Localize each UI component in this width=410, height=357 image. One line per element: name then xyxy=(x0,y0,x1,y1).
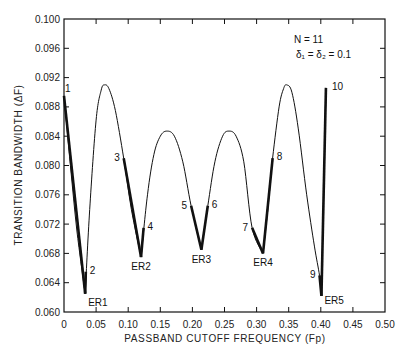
point-label: 3 xyxy=(114,152,120,163)
extremal-label: ER4 xyxy=(253,257,273,268)
point-label: 6 xyxy=(212,199,218,210)
n-annotation: N = 11 xyxy=(294,34,323,45)
bold-segment xyxy=(252,228,263,254)
y-tick-label: 0.100 xyxy=(35,14,60,25)
bold-segment xyxy=(124,158,141,257)
point-label: 7 xyxy=(243,222,249,233)
x-tick-label: 0.10 xyxy=(118,319,138,330)
x-tick-label: 0.50 xyxy=(375,319,395,330)
extremal-label: ER5 xyxy=(324,295,344,306)
bold-segment xyxy=(263,158,273,253)
extremal-label: ER1 xyxy=(88,297,108,308)
y-tick-label: 0.084 xyxy=(35,131,60,142)
x-tick-label: 0.45 xyxy=(343,319,363,330)
x-axis-ticks: 00.050.100.150.200.250.300.350.400.450.5… xyxy=(61,19,395,330)
point-label: 9 xyxy=(310,269,316,280)
delta-annotation: δ₁ = δ₂ = 0.1 xyxy=(296,49,352,60)
point-labels: 12345678910ER1ER2ER3ER4ER5 xyxy=(65,81,344,308)
x-tick-label: 0.15 xyxy=(151,319,171,330)
point-label: 8 xyxy=(277,151,283,162)
y-tick-label: 0.096 xyxy=(35,43,60,54)
point-label: 10 xyxy=(332,81,344,92)
y-tick-label: 0.064 xyxy=(35,277,60,288)
y-tick-label: 0.088 xyxy=(35,101,60,112)
x-axis-title: PASSBAND CUTOFF FREQUENCY (Fp) xyxy=(124,333,325,344)
extremal-label: ER3 xyxy=(192,254,212,265)
y-axis-title: TRANSITION BANDWIDTH (ΔF) xyxy=(13,84,24,245)
y-tick-label: 0.092 xyxy=(35,72,60,83)
x-tick-label: 0.05 xyxy=(86,319,106,330)
point-label: 1 xyxy=(65,83,71,94)
plot-frame xyxy=(64,19,385,312)
x-tick-label: 0.20 xyxy=(183,319,203,330)
point-label: 2 xyxy=(90,265,96,276)
point-label: 5 xyxy=(182,200,188,211)
x-tick-label: 0.25 xyxy=(215,319,235,330)
y-tick-label: 0.076 xyxy=(35,189,60,200)
point-label: 4 xyxy=(148,221,154,232)
y-tick-label: 0.068 xyxy=(35,248,60,259)
bold-segment xyxy=(191,206,201,250)
bold-segment xyxy=(85,272,86,294)
extremal-label: ER2 xyxy=(131,261,151,272)
bold-segment xyxy=(321,88,325,296)
x-tick-label: 0 xyxy=(61,319,67,330)
x-tick-label: 0.30 xyxy=(247,319,267,330)
y-tick-label: 0.080 xyxy=(35,160,60,171)
transition-bandwidth-chart: 00.050.100.150.200.250.300.350.400.450.5… xyxy=(0,0,410,357)
y-tick-label: 0.072 xyxy=(35,219,60,230)
bold-segment xyxy=(141,228,144,257)
x-tick-label: 0.35 xyxy=(279,319,299,330)
x-tick-label: 0.40 xyxy=(311,319,331,330)
y-tick-label: 0.060 xyxy=(35,307,60,318)
bold-segment xyxy=(201,206,207,250)
